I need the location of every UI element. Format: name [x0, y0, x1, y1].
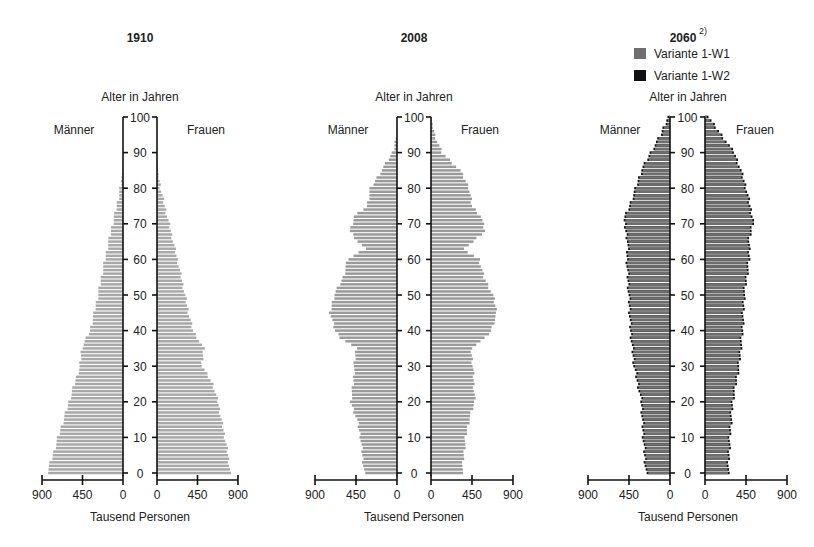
y-tick-label: 80 — [681, 182, 695, 196]
y-tick-label: 40 — [407, 324, 421, 338]
y-tick-label: 90 — [133, 146, 147, 160]
y-tick-label: 80 — [407, 182, 421, 196]
y-tick-label: 0 — [411, 467, 418, 481]
x-tick-label-left: 0 — [394, 488, 401, 502]
y-tick-label: 0 — [137, 467, 144, 481]
x-tick-label-left: 0 — [120, 488, 127, 502]
y-tick-label: 50 — [407, 289, 421, 303]
y-tick-label: 20 — [407, 395, 421, 409]
y-tick-label: 30 — [133, 360, 147, 374]
x-tick-label-right: 900 — [777, 488, 797, 502]
x-tick-label-left: 450 — [72, 488, 92, 502]
ylabel-1910: Alter in Jahren — [101, 90, 178, 104]
title-1910: 1910 — [127, 31, 154, 45]
y-tick-label: 30 — [407, 360, 421, 374]
label-maenner-1910: Männer — [54, 123, 95, 137]
y-tick-label: 10 — [133, 431, 147, 445]
label-frauen-1910: Frauen — [187, 123, 225, 137]
ylabel-2060: Alter in Jahren — [649, 90, 726, 104]
y-tick-label: 80 — [133, 182, 147, 196]
y-tick-label: 10 — [681, 431, 695, 445]
x-tick-label-left: 450 — [619, 488, 639, 502]
y-tick-label: 20 — [681, 395, 695, 409]
y-tick-label: 60 — [133, 253, 147, 267]
xlabel-2008: Tausend Personen — [364, 510, 464, 524]
legend-label-w2: Variante 1-W2 — [654, 69, 730, 83]
x-tick-label-right: 0 — [702, 488, 709, 502]
y-tick-label: 100 — [677, 111, 697, 125]
y-tick-label: 50 — [133, 289, 147, 303]
y-tick-label: 0 — [684, 467, 691, 481]
title-2060: 2060 — [670, 31, 697, 45]
y-tick-label: 20 — [133, 395, 147, 409]
y-tick-label: 70 — [407, 217, 421, 231]
pyramid-2008: 010203040506070809010090045000450900 — [305, 111, 523, 503]
label-maenner-2008: Männer — [328, 123, 369, 137]
x-tick-label-left: 900 — [32, 488, 52, 502]
legend-swatch-w2 — [634, 70, 646, 81]
xlabel-2060: Tausend Personen — [638, 510, 738, 524]
title-2008: 2008 — [401, 31, 428, 45]
label-frauen-2008: Frauen — [461, 123, 499, 137]
ylabel-2008: Alter in Jahren — [375, 90, 452, 104]
y-tick-label: 70 — [681, 217, 695, 231]
x-tick-label-left: 900 — [305, 488, 325, 502]
x-tick-label-right: 450 — [187, 488, 207, 502]
legend-label-w1: Variante 1-W1 — [654, 47, 730, 61]
x-tick-label-right: 0 — [428, 488, 435, 502]
y-tick-label: 90 — [681, 146, 695, 160]
x-tick-label-right: 0 — [154, 488, 161, 502]
y-tick-label: 90 — [407, 146, 421, 160]
x-tick-label-left: 900 — [578, 488, 598, 502]
y-tick-label: 10 — [407, 431, 421, 445]
label-frauen-2060: Frauen — [736, 123, 774, 137]
y-tick-label: 100 — [130, 111, 150, 125]
x-tick-label-right: 450 — [736, 488, 756, 502]
y-tick-label: 60 — [407, 253, 421, 267]
y-tick-label: 40 — [681, 324, 695, 338]
y-tick-label: 70 — [133, 217, 147, 231]
y-tick-label: 100 — [404, 111, 424, 125]
x-tick-label-right: 900 — [503, 488, 523, 502]
y-tick-label: 50 — [681, 289, 695, 303]
title-2060-footnote: 2) — [699, 26, 707, 36]
x-tick-label-right: 900 — [228, 488, 248, 502]
y-tick-label: 60 — [681, 253, 695, 267]
legend-swatch-w1 — [634, 48, 646, 59]
pyramid-plots: 0102030405060708090100900450004509000102… — [32, 111, 797, 503]
y-tick-label: 40 — [133, 324, 147, 338]
pyramid-2060: 010203040506070809010090045000450900 — [578, 111, 797, 503]
x-tick-label-right: 450 — [462, 488, 482, 502]
y-tick-label: 30 — [681, 360, 695, 374]
x-tick-label-left: 450 — [346, 488, 366, 502]
population-pyramids: 1910 2008 2060 2) Variante 1-W1 Variante… — [0, 0, 814, 547]
pyramid-1910: 010203040506070809010090045000450900 — [32, 111, 248, 503]
label-maenner-2060: Männer — [600, 123, 641, 137]
x-tick-label-left: 0 — [667, 488, 674, 502]
xlabel-1910: Tausend Personen — [90, 510, 190, 524]
